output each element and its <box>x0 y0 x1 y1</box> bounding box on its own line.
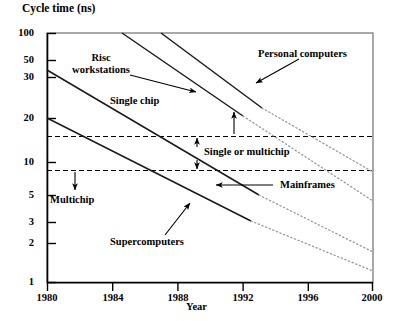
annotation-risc-line1: Risc <box>91 52 110 63</box>
y-axis-title: Cycle time (ns) <box>22 2 95 14</box>
y-tick-label-5: 5 <box>8 189 34 200</box>
mainframes-line <box>47 70 259 195</box>
annotation-single-or-multichip: Single or multichip <box>204 146 290 157</box>
annotation-risc-workstations: Risc workstations <box>62 52 140 76</box>
y-tick-label-10: 10 <box>8 156 34 167</box>
y-tick-label-50: 50 <box>8 54 34 65</box>
annotation-supercomputers: Supercomputers <box>110 236 184 247</box>
annotation-risc-line2: workstations <box>72 64 130 75</box>
x-tick-label-1996: 1996 <box>285 292 331 303</box>
annotation-single-chip: Single chip <box>110 95 159 106</box>
cycle-time-chart: Cycle time (ns) Year 100 50 30 20 10 5 3… <box>0 0 399 321</box>
annotation-mainframes: Mainframes <box>280 179 335 190</box>
y-tick-label-3: 3 <box>8 216 34 227</box>
supercomputers-projection <box>251 221 373 271</box>
x-tick-label-1992: 1992 <box>220 292 266 303</box>
x-axis-ticks <box>48 283 373 291</box>
x-tick-label-1984: 1984 <box>90 292 136 303</box>
annotation-personal-computers: Personal computers <box>258 48 347 59</box>
y-tick-label-2: 2 <box>8 237 34 248</box>
x-tick-label-2000: 2000 <box>349 292 395 303</box>
supercomputers-arrow <box>165 203 190 235</box>
y-tick-label-1: 1 <box>8 276 34 287</box>
personal-computers-arrow <box>256 59 299 83</box>
mainframes-projection <box>259 195 373 252</box>
y-tick-label-20: 20 <box>8 112 34 123</box>
annotation-multichip: Multichip <box>50 194 94 205</box>
supercomputers-line <box>47 118 251 221</box>
y-tick-label-100: 100 <box>8 27 34 38</box>
x-tick-label-1980: 1980 <box>24 292 70 303</box>
x-tick-label-1988: 1988 <box>155 292 201 303</box>
y-tick-label-30: 30 <box>8 71 34 82</box>
